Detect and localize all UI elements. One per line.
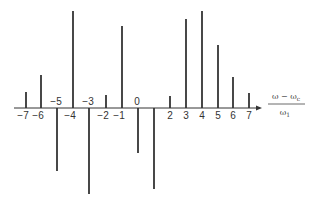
tick-label-n-1: −1 — [113, 110, 125, 121]
tick-label-n7: 7 — [246, 110, 252, 121]
x-label-numerator: ω − ωc — [272, 92, 301, 102]
x-label-denominator: ω1 — [280, 108, 290, 118]
tick-label-n3: 3 — [183, 110, 189, 121]
tick-label-n0: 0 — [134, 96, 140, 107]
tick-label-n-7: −7 — [17, 110, 29, 121]
tick-label-n-2: −2 — [97, 110, 109, 121]
spectrum-stem-chart: −7−6−5−4−3−2−10234567 ω − ωc ω1 — [0, 0, 311, 204]
x-axis-label: ω − ωc ω1 — [268, 92, 305, 118]
tick-label-n5: 5 — [215, 110, 221, 121]
tick-label-n-3: −3 — [82, 96, 94, 107]
tick-label-n-4: −4 — [64, 110, 76, 121]
tick-label-n2: 2 — [167, 110, 173, 121]
tick-label-n6: 6 — [230, 110, 236, 121]
x-axis-arrow-icon — [256, 106, 262, 111]
tick-label-n4: 4 — [199, 110, 205, 121]
tick-label-n-5: −5 — [50, 96, 62, 107]
tick-label-n-6: −6 — [32, 110, 44, 121]
